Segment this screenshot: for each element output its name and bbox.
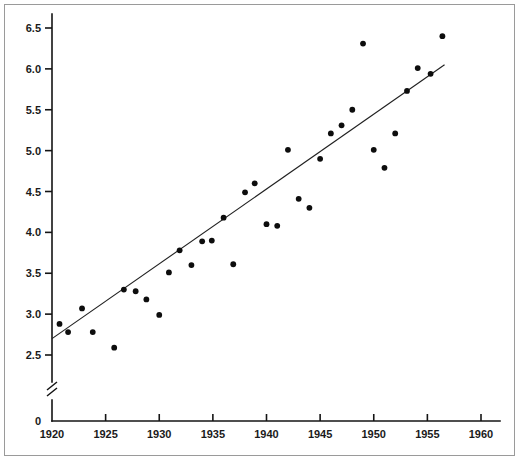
data-point — [382, 165, 388, 171]
data-point — [317, 156, 323, 162]
y-tick-label: 2.5 — [26, 349, 41, 361]
data-point — [404, 88, 410, 94]
x-tick-label: 1955 — [415, 428, 439, 440]
chart-figure: 2.53.03.54.04.55.05.56.06.50192019251930… — [0, 0, 519, 467]
x-tick-label: 1950 — [362, 428, 386, 440]
y-tick-label: 5.5 — [26, 104, 41, 116]
x-tick-label: 1920 — [40, 428, 64, 440]
y-tick-label: 3.0 — [26, 308, 41, 320]
data-point — [428, 71, 434, 77]
x-tick-label: 1935 — [201, 428, 225, 440]
data-series-observations — [57, 33, 446, 350]
data-point — [90, 329, 96, 335]
data-point — [328, 131, 334, 137]
data-point — [79, 306, 85, 312]
data-point — [177, 247, 183, 253]
data-point — [189, 262, 195, 268]
x-tick-label: 1940 — [254, 428, 278, 440]
y-tick-label: 3.5 — [26, 267, 41, 279]
data-point — [221, 215, 227, 221]
data-point — [439, 33, 445, 39]
data-point — [274, 223, 280, 229]
data-point — [392, 131, 398, 137]
x-tick-label: 1925 — [93, 428, 117, 440]
axis-break-icon — [47, 382, 57, 396]
data-point — [307, 205, 313, 211]
y-tick-label: 6.5 — [26, 22, 41, 34]
data-point — [371, 147, 377, 153]
x-tick-label: 1960 — [469, 428, 493, 440]
x-tick-label: 1930 — [147, 428, 171, 440]
data-point — [415, 65, 421, 71]
data-point — [360, 41, 366, 47]
data-point — [133, 288, 139, 294]
y-axis-zero-label: 0 — [35, 415, 41, 427]
data-point — [264, 221, 270, 227]
data-point — [199, 238, 205, 244]
data-point — [252, 180, 258, 186]
data-point — [65, 329, 71, 335]
y-tick-label: 6.0 — [26, 63, 41, 75]
data-point — [285, 147, 291, 153]
data-point — [111, 345, 117, 351]
data-point — [143, 297, 149, 303]
y-tick-label: 4.5 — [26, 186, 41, 198]
x-tick-label: 1945 — [308, 428, 332, 440]
data-point — [57, 321, 63, 327]
data-point — [339, 122, 345, 128]
data-point — [156, 312, 162, 318]
data-point — [242, 189, 248, 195]
y-tick-label: 4.0 — [26, 226, 41, 238]
data-point — [296, 196, 302, 202]
data-point — [209, 238, 215, 244]
y-tick-label: 5.0 — [26, 145, 41, 157]
data-point — [230, 261, 236, 267]
regression-line — [52, 65, 445, 339]
data-point — [121, 287, 127, 293]
scatter-plot: 2.53.03.54.04.55.05.56.06.50192019251930… — [0, 0, 519, 467]
data-point — [349, 107, 355, 113]
data-point — [166, 270, 172, 276]
